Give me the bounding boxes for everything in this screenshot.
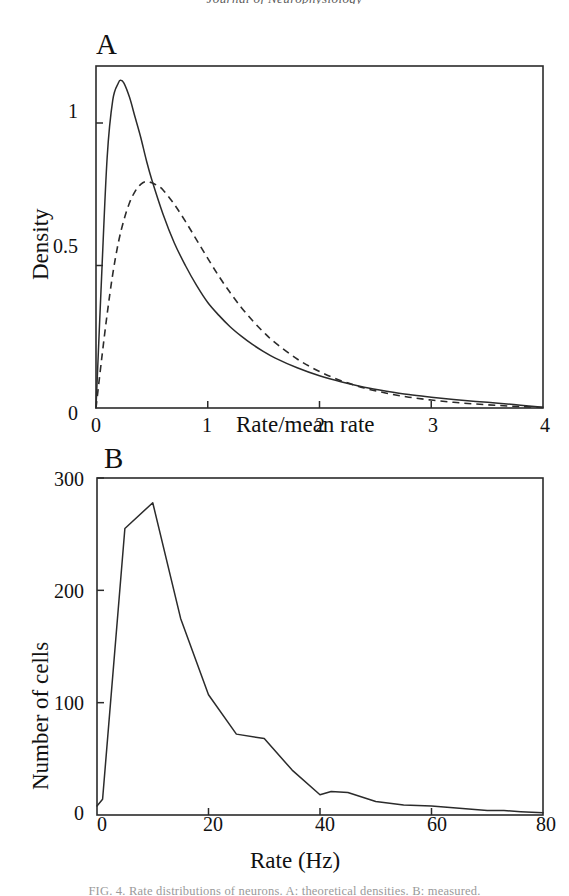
series-cell-count-histogram: [97, 503, 543, 813]
plot-frame-B: [97, 478, 543, 815]
